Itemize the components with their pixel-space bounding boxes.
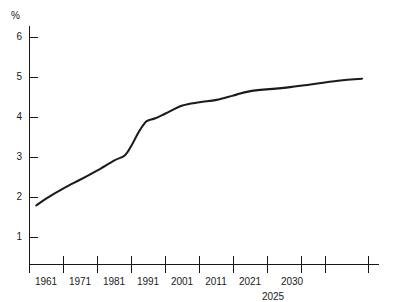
chart-container: % 6 5 4 3 2 1 1961 1971 1981 1991 2001 2…: [0, 0, 393, 302]
y-axis-label-2: 2: [6, 192, 22, 202]
y-axis-label-5: 5: [6, 72, 22, 82]
x-axis-label-2030: 2030: [272, 277, 312, 287]
x-axis-label-2025: 2025: [253, 292, 293, 302]
y-axis-label-3: 3: [6, 152, 22, 162]
chart-plot-area: [0, 0, 393, 302]
data-series-line: [36, 79, 362, 206]
y-axis-label-1: 1: [6, 232, 22, 242]
y-axis-ticks: [30, 38, 39, 238]
y-axis-unit-label: %: [11, 11, 20, 21]
x-axis-label-2021: 2021: [230, 277, 270, 287]
y-axis-label-4: 4: [6, 112, 22, 122]
y-axis-label-6: 6: [6, 32, 22, 42]
